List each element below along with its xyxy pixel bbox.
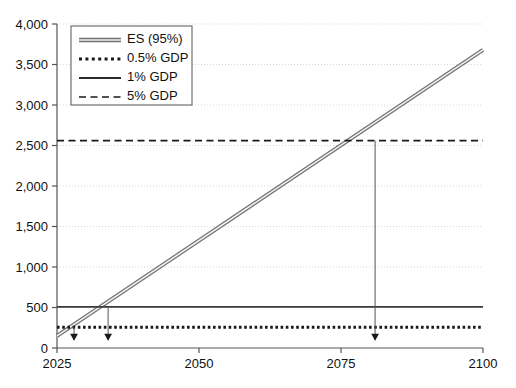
x-tick-label: 2100 [469, 356, 498, 371]
y-tick-label: 4,000 [15, 17, 48, 32]
x-tick-label: 2025 [43, 356, 72, 371]
y-tick-label: 0 [41, 341, 48, 356]
x-tick-label: 2075 [327, 356, 356, 371]
y-tick-label: 3,000 [15, 98, 48, 113]
y-tick-label: 1,000 [15, 260, 48, 275]
y-tick-label: 3,500 [15, 57, 48, 72]
y-tick-label: 1,500 [15, 219, 48, 234]
y-tick-label: 2,500 [15, 138, 48, 153]
line-chart: 05001,0001,5002,0002,5003,0003,5004,000 … [0, 0, 516, 388]
legend-entry-label: ES (95%) [127, 31, 183, 46]
legend-entry-label: 5% GDP [127, 88, 178, 103]
chart-legend: ES (95%)0.5% GDP1% GDP5% GDP [71, 26, 192, 105]
legend-entry-label: 1% GDP [127, 69, 178, 84]
y-tick-label: 2,000 [15, 179, 48, 194]
y-tick-label: 500 [26, 300, 48, 315]
chart-container: 05001,0001,5002,0002,5003,0003,5004,000 … [0, 0, 516, 388]
x-tick-label: 2050 [185, 356, 214, 371]
legend-entry-label: 0.5% GDP [127, 50, 188, 65]
